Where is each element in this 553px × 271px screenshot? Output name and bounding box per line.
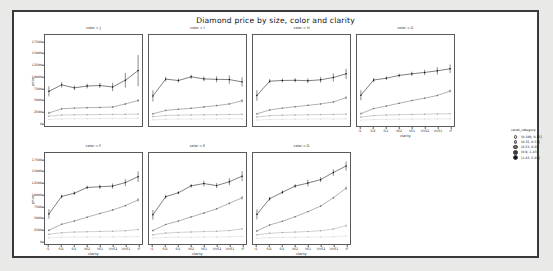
data-point-marker <box>74 231 75 232</box>
data-point-marker <box>241 236 242 237</box>
data-point-marker <box>449 113 450 114</box>
data-point-marker <box>229 103 230 104</box>
data-point-marker <box>256 237 257 238</box>
series-line <box>49 101 138 113</box>
legend-marker-icon <box>511 155 520 160</box>
y-axis-tick-mark <box>42 65 44 66</box>
data-point-marker <box>345 165 346 166</box>
data-point-marker <box>360 94 361 95</box>
x-axis-tick-mark <box>48 245 49 247</box>
data-point-marker <box>216 185 217 186</box>
data-point-marker <box>86 85 87 86</box>
series-line <box>49 200 138 230</box>
y-axis-label: price <box>31 195 35 203</box>
data-point-marker <box>437 95 438 96</box>
data-point-marker <box>269 237 270 238</box>
data-point-marker <box>229 203 230 204</box>
data-point-marker <box>424 118 425 119</box>
data-point-marker <box>152 95 153 96</box>
facet-panel-title: color = I <box>148 26 247 30</box>
data-point-marker <box>320 103 321 104</box>
data-point-marker <box>137 236 138 237</box>
y-axis-tick-label: 7500 <box>34 87 42 91</box>
plot-area <box>44 34 143 127</box>
data-point-marker <box>165 232 166 233</box>
plot-area <box>356 34 455 127</box>
data-point-marker <box>411 73 412 74</box>
data-point-marker <box>125 80 126 81</box>
data-point-marker <box>48 112 49 113</box>
data-point-marker <box>294 231 295 232</box>
x-axis-tick-mark <box>386 127 387 129</box>
data-point-marker <box>256 234 257 235</box>
data-point-marker <box>241 81 242 82</box>
y-axis-tick-mark <box>42 195 44 196</box>
data-point-marker <box>203 183 204 184</box>
x-axis-tick-mark <box>373 127 374 129</box>
data-point-marker <box>203 78 204 79</box>
facet-panel-title: color = F <box>44 144 143 148</box>
data-point-marker <box>137 229 138 230</box>
data-point-marker <box>99 107 100 108</box>
legend-title: carat_category <box>511 128 553 132</box>
data-point-marker <box>178 80 179 81</box>
data-point-marker <box>190 216 191 217</box>
data-point-marker <box>86 216 87 217</box>
figure-canvas: Diamond price by size, color and clarity… <box>12 10 539 258</box>
x-axis-tick-mark <box>412 127 413 129</box>
data-point-marker <box>165 237 166 238</box>
data-point-marker <box>424 113 425 114</box>
facet-panel: color = EI1SI2SI1VS2VS1VVS2VVS1IFclarity <box>148 152 247 245</box>
y-axis-tick-label: 15000 <box>32 169 42 173</box>
data-point-marker <box>216 79 217 80</box>
data-point-marker <box>256 214 257 215</box>
data-point-marker <box>61 114 62 115</box>
data-point-marker <box>411 118 412 119</box>
data-point-marker <box>398 103 399 104</box>
data-point-marker <box>48 119 49 120</box>
data-point-marker <box>241 228 242 229</box>
data-point-marker <box>216 231 217 232</box>
data-point-marker <box>48 234 49 235</box>
x-axis-tick-mark <box>360 127 361 129</box>
y-axis-tick-mark <box>42 124 44 125</box>
x-axis-label: clarity <box>252 252 351 256</box>
x-axis-tick-mark <box>347 245 348 247</box>
legend-entry-label: (0.199, 0.35] <box>521 135 542 139</box>
facet-panel-title: color = H <box>252 26 351 30</box>
y-axis-tick-mark <box>42 242 44 243</box>
data-point-marker <box>216 236 217 237</box>
x-axis-label: clarity <box>148 252 247 256</box>
facet-panel-title: color = J <box>44 26 143 30</box>
y-axis-tick-mark <box>42 53 44 54</box>
data-point-marker <box>125 205 126 206</box>
data-point-marker <box>282 107 283 108</box>
y-axis-tick-mark <box>42 77 44 78</box>
data-point-marker <box>125 236 126 237</box>
data-point-marker <box>178 237 179 238</box>
y-axis-tick-mark <box>42 230 44 231</box>
data-point-marker <box>112 230 113 231</box>
data-point-marker <box>333 228 334 229</box>
data-point-marker <box>229 114 230 115</box>
x-axis-tick-mark <box>256 245 257 247</box>
legend-entry: (1.43, 5.01] <box>511 155 553 160</box>
data-point-marker <box>99 231 100 232</box>
facet-panel: color = F0250050007500100001250015000175… <box>44 152 143 245</box>
legend-entry-label: (1.43, 5.01] <box>521 156 540 160</box>
data-point-marker <box>398 75 399 76</box>
x-axis-tick-mark <box>243 245 244 247</box>
data-point-marker <box>165 224 166 225</box>
y-axis-tick-mark <box>42 41 44 42</box>
data-point-marker <box>165 196 166 197</box>
data-point-marker <box>74 192 75 193</box>
y-axis-tick-label: 5000 <box>34 98 42 102</box>
data-point-marker <box>229 79 230 80</box>
data-point-marker <box>229 236 230 237</box>
data-point-marker <box>320 118 321 119</box>
data-point-marker <box>282 115 283 116</box>
data-point-marker <box>216 208 217 209</box>
data-point-marker <box>190 76 191 77</box>
data-point-marker <box>345 113 346 114</box>
plot-area <box>252 152 351 245</box>
